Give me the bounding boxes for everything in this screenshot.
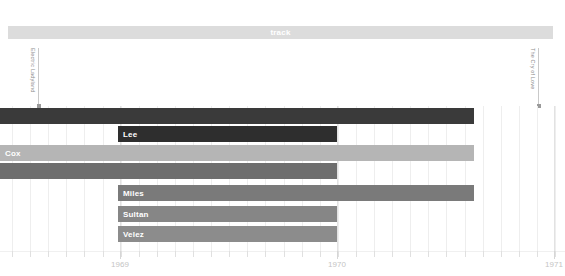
axis-tick-minor bbox=[139, 251, 140, 257]
axis-tick-minor bbox=[175, 251, 176, 257]
bar-unlabeled-3[interactable] bbox=[0, 163, 337, 179]
annotation-label: The Cry of Love bbox=[530, 48, 536, 89]
axis-tick-minor bbox=[501, 251, 502, 257]
bar-label: Cox bbox=[5, 145, 21, 161]
time-axis: 196919701971 bbox=[0, 251, 565, 276]
axis-tick-minor bbox=[555, 251, 556, 257]
axis-tick-minor bbox=[483, 251, 484, 257]
axis-label-year: 1971 bbox=[545, 260, 563, 269]
axis-tick-minor bbox=[356, 251, 357, 257]
axis-tick-year bbox=[120, 251, 121, 259]
axis-tick-minor bbox=[374, 251, 375, 257]
axis-tick-minor bbox=[48, 251, 49, 257]
axis-tick-minor bbox=[465, 251, 466, 257]
annotation-leader-line bbox=[538, 48, 539, 106]
gridline-minor bbox=[392, 106, 393, 251]
gridline-year bbox=[554, 106, 555, 251]
gridline-minor bbox=[356, 106, 357, 251]
axis-tick-minor bbox=[157, 251, 158, 257]
axis-tick-minor bbox=[66, 251, 67, 257]
axis-tick-minor bbox=[428, 251, 429, 257]
axis-tick-minor bbox=[446, 251, 447, 257]
axis-tick-minor bbox=[30, 251, 31, 257]
bar-unlabeled-0[interactable] bbox=[0, 108, 474, 124]
bar-label: Miles bbox=[123, 185, 144, 201]
track-header-label: track bbox=[8, 26, 553, 39]
bar-label: Velez bbox=[123, 226, 144, 242]
axis-tick-year bbox=[554, 251, 555, 259]
axis-tick-minor bbox=[12, 251, 13, 257]
gridline-minor bbox=[555, 106, 556, 251]
bar-sultan[interactable]: Sultan bbox=[118, 206, 337, 222]
annotation-label: Electric Ladyland bbox=[30, 48, 36, 92]
annotation-the-cry-of-love: The Cry of Love bbox=[538, 48, 539, 106]
axis-tick-minor bbox=[84, 251, 85, 257]
axis-tick-minor bbox=[519, 251, 520, 257]
gridline-minor bbox=[483, 106, 484, 251]
annotation-leader-line bbox=[38, 48, 39, 106]
gridline-year bbox=[337, 106, 338, 251]
bar-miles[interactable]: Miles bbox=[118, 185, 474, 201]
axis-tick-minor bbox=[211, 251, 212, 257]
axis-tick-minor bbox=[193, 251, 194, 257]
axis-tick-minor bbox=[302, 251, 303, 257]
bar-cox[interactable]: Cox bbox=[0, 145, 474, 161]
axis-tick-minor bbox=[537, 251, 538, 257]
bar-velez[interactable]: Velez bbox=[118, 226, 337, 242]
axis-tick-minor bbox=[320, 251, 321, 257]
gridline-minor bbox=[465, 106, 466, 251]
bar-lee[interactable]: Lee bbox=[118, 126, 337, 142]
axis-tick-minor bbox=[265, 251, 266, 257]
gridline-minor bbox=[410, 106, 411, 251]
axis-tick-minor bbox=[247, 251, 248, 257]
bar-label: Lee bbox=[123, 126, 137, 142]
track-header-bar: track bbox=[8, 26, 553, 39]
axis-label-year: 1970 bbox=[328, 260, 346, 269]
bar-label: Sultan bbox=[123, 206, 149, 222]
gridline-minor bbox=[374, 106, 375, 251]
axis-label-year: 1969 bbox=[111, 260, 129, 269]
axis-tick-minor bbox=[229, 251, 230, 257]
axis-tick-minor bbox=[284, 251, 285, 257]
gridline-minor bbox=[428, 106, 429, 251]
gridline-minor bbox=[537, 106, 538, 251]
axis-tick-minor bbox=[392, 251, 393, 257]
gridline-minor bbox=[446, 106, 447, 251]
chart-canvas: track Electric Ladyland The Cry of Love … bbox=[0, 0, 565, 276]
gridline-minor bbox=[519, 106, 520, 251]
annotation-electric-ladyland: Electric Ladyland bbox=[38, 48, 39, 106]
axis-tick-minor bbox=[410, 251, 411, 257]
axis-tick-year bbox=[337, 251, 338, 259]
axis-tick-minor bbox=[103, 251, 104, 257]
gridline-minor bbox=[501, 106, 502, 251]
